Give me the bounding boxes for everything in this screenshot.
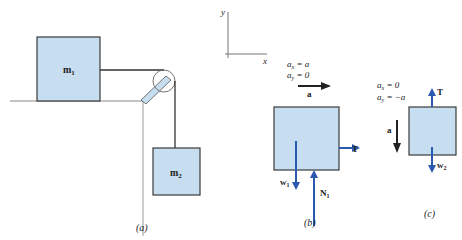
panel-c-eq-ax: ax = 0 bbox=[377, 80, 400, 91]
free-body-m1 bbox=[274, 107, 339, 170]
panel-b: ax = a ay = 0 a T w1 N1 (b) bbox=[274, 59, 358, 229]
panel-c: ax = 0 ay = −a a T w2 (c) bbox=[377, 80, 456, 220]
coordinate-axes: y x bbox=[220, 7, 267, 66]
panel-a: m1 m2 (a) bbox=[10, 37, 200, 236]
panel-b-caption: (b) bbox=[304, 217, 316, 229]
weight-label-w2: w2 bbox=[437, 160, 447, 171]
pulley-bracket bbox=[141, 76, 171, 104]
panel-c-caption: (c) bbox=[424, 208, 436, 220]
tension-label-b: T bbox=[352, 144, 358, 154]
accel-label-c: a bbox=[387, 125, 392, 135]
normal-label-n1: N1 bbox=[320, 188, 330, 199]
panel-b-eq-ax: ax = a bbox=[287, 59, 310, 70]
y-axis-label: y bbox=[220, 7, 225, 17]
atwood-table-diagram: m1 m2 (a) y x ax = a ay = 0 a bbox=[0, 0, 462, 240]
x-axis-label: x bbox=[262, 56, 267, 66]
panel-b-eq-ay: ay = 0 bbox=[287, 70, 310, 81]
panel-c-eq-ay: ay = −a bbox=[377, 92, 406, 103]
weight-label-w1: w1 bbox=[280, 177, 290, 188]
panel-a-caption: (a) bbox=[136, 222, 148, 234]
tension-label-c: T bbox=[437, 87, 443, 97]
accel-label-b: a bbox=[307, 89, 312, 99]
